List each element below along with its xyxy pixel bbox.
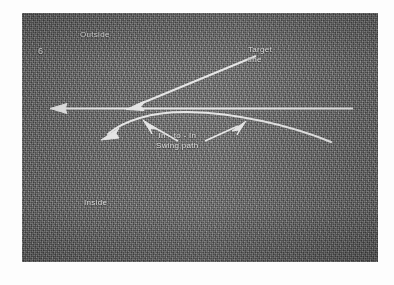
target-line-label-line1: Target xyxy=(248,45,272,54)
swing-path-label-line2: Swing path xyxy=(156,141,199,150)
target-line-label: Target line xyxy=(248,45,272,65)
swing-path-label-line1: In - to - In xyxy=(158,131,196,140)
swing-path-leader-right xyxy=(205,126,238,141)
page-canvas: 6 Outside Target line In - to - In Swing… xyxy=(0,0,394,285)
target-line-leader xyxy=(135,56,256,106)
inside-label: Inside xyxy=(84,198,107,208)
swing-path-curve xyxy=(108,112,331,142)
diagram-overlay xyxy=(22,13,378,262)
target-line-arrowhead xyxy=(50,104,67,114)
swing-path-label: In - to - In Swing path xyxy=(156,131,199,151)
outside-label: Outside xyxy=(80,30,110,40)
target-line-label-line2: line xyxy=(248,55,262,64)
figure-number-label: 6 xyxy=(38,46,43,56)
swing-path-arrowhead xyxy=(101,128,119,140)
scanned-photograph: 6 Outside Target line In - to - In Swing… xyxy=(22,13,378,262)
target-line-leader-arrowhead xyxy=(126,101,145,111)
